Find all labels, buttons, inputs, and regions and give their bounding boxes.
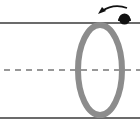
ring-on-cylinder-diagram: [0, 0, 140, 140]
ball-top: [119, 14, 130, 25]
